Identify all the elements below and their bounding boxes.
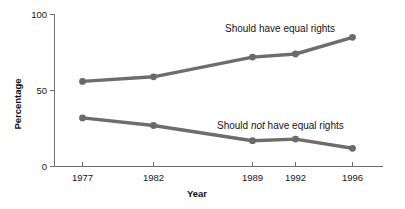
x-tick-label-1996: 1996 [342, 172, 363, 183]
data-point [349, 34, 356, 41]
data-point [150, 73, 157, 80]
series-markers-should-have-equal-rights [79, 34, 356, 85]
x-tick-label-1989: 1989 [242, 172, 263, 183]
data-point [292, 136, 299, 143]
series-annotation-upper: Should have equal rights [225, 23, 335, 34]
x-tick-label-1992: 1992 [285, 172, 306, 183]
x-axis-title: Year [187, 188, 207, 199]
data-point [249, 54, 256, 61]
x-tick-label-1977: 1977 [72, 172, 93, 183]
series-line-should-have-equal-rights [83, 37, 353, 81]
data-point [292, 51, 299, 58]
x-tick-label-1982: 1982 [143, 172, 164, 183]
series-annotation-lower: Should not have equal rights [217, 120, 344, 131]
y-tick-label-100: 100 [31, 9, 47, 20]
data-point [150, 122, 157, 129]
data-point [79, 78, 86, 85]
data-point [79, 115, 86, 122]
data-point [249, 137, 256, 144]
chart-container: 100 50 0 1977 1982 1989 1992 1996 Year P… [0, 0, 405, 209]
y-tick-label-50: 50 [36, 85, 47, 96]
data-point [349, 145, 356, 152]
y-tick-label-0: 0 [42, 161, 47, 172]
line-chart-svg: 100 50 0 1977 1982 1989 1992 1996 Year P… [0, 0, 405, 209]
y-axis-title: Percentage [12, 78, 23, 129]
